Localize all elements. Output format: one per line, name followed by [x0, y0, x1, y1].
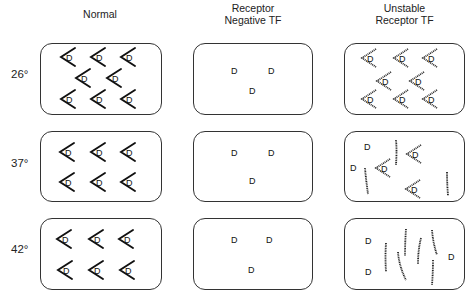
panel-negative-42: [193, 218, 313, 290]
panel-unstable-37: [344, 131, 465, 202]
panel-normal-26: [40, 43, 162, 115]
row-label-26: 26°: [11, 68, 28, 80]
column-title-unstable-receptor: Unstable Receptor TF: [344, 2, 465, 26]
column-title-line: Receptor TF: [344, 14, 465, 26]
panel-unstable-26: [344, 43, 465, 115]
panel-negative-37: [193, 131, 313, 202]
column-title-normal: Normal: [38, 8, 162, 20]
column-title-line: Negative TF: [193, 14, 313, 26]
column-title-line: Normal: [38, 8, 162, 20]
column-title-receptor-negative: Receptor Negative TF: [193, 2, 313, 26]
panel-normal-37: [40, 131, 162, 202]
row-label-37: 37°: [11, 157, 28, 169]
column-title-line: Unstable: [344, 2, 465, 14]
panel-negative-26: [193, 43, 313, 115]
panel-unstable-42: [344, 218, 465, 290]
column-title-line: Receptor: [193, 2, 313, 14]
panel-normal-42: [40, 218, 162, 290]
row-label-42: 42°: [11, 243, 28, 255]
